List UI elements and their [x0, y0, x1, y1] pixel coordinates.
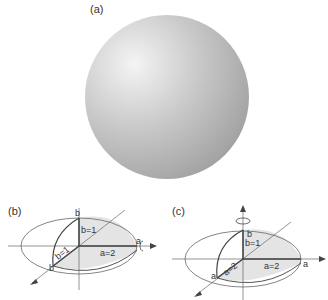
label-a-end: a [136, 236, 141, 246]
label-b-top: b [75, 208, 80, 218]
label-b-eq: b=1 [245, 238, 260, 248]
label-a-end: a [303, 259, 308, 269]
sphere-panel-a [0, 0, 328, 180]
label-b-corner: b [49, 263, 54, 273]
label-a-eq: a=2 [264, 261, 279, 271]
spheroid-diagram-c: b b=1 a=2 a a=2 a [164, 180, 328, 300]
spheroid-diagram-b: b b=1 b=1 b a=2 a [0, 180, 164, 300]
sphere [85, 15, 249, 179]
label-b-eq: b=1 [81, 225, 96, 235]
label-a-corner: a [211, 271, 216, 281]
label-a-eq: a=2 [100, 248, 115, 258]
